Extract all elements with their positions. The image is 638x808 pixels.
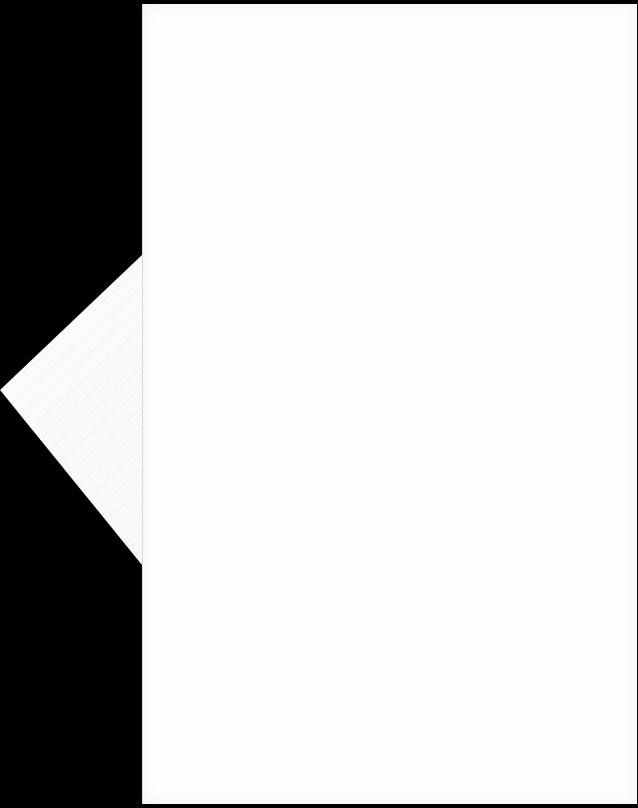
front-paper-sheet: [142, 4, 637, 804]
scene-background: [0, 0, 638, 808]
